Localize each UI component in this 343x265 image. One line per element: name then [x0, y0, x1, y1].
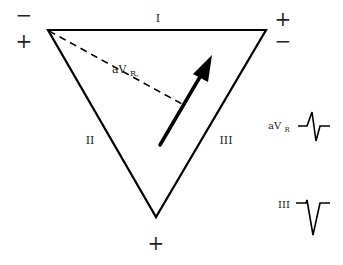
- avr-complex-label: aV R: [268, 120, 290, 134]
- lead-ii-label: II: [86, 134, 95, 147]
- avr-axis-label-sub: R,: [130, 69, 139, 78]
- polarity-top-left-plus: +: [16, 29, 33, 53]
- avr-complex-label-main: aV: [268, 120, 282, 131]
- avr-axis-label: aV R,: [112, 63, 139, 78]
- avr-complex-label-sub: R: [284, 126, 290, 134]
- avr-axis-label-main: aV: [112, 63, 128, 76]
- lead-iii-complex-label: III: [278, 199, 290, 210]
- mean-vector-arrow-shaft: [160, 70, 204, 145]
- lead-i-label: I: [156, 12, 160, 25]
- avr-qrs-complex-waveform: [298, 112, 330, 141]
- polarity-top-left-minus: −: [16, 3, 33, 27]
- polarity-bottom-plus: +: [148, 231, 165, 255]
- polarity-top-right-plus: +: [275, 7, 292, 31]
- einthoven-diagram: I II III aV R, − + + − + aV R III: [0, 0, 343, 265]
- lead-iii-label: III: [219, 134, 232, 147]
- lead-iii-qrs-complex-waveform: [296, 200, 330, 235]
- polarity-top-right-minus: −: [275, 29, 292, 53]
- einthoven-triangle: [48, 30, 266, 217]
- mean-vector-arrowhead-icon: [193, 55, 212, 82]
